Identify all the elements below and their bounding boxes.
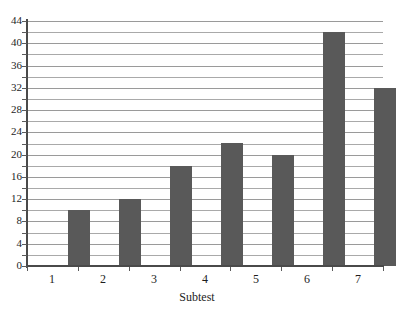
y-axis-tick-label: 36 (0, 60, 22, 71)
y-axis-tick (22, 88, 27, 89)
y-axis-tick-label: 20 (0, 149, 22, 160)
y-axis-tick (22, 43, 27, 44)
bar (272, 155, 294, 266)
x-axis-tick (78, 267, 79, 271)
y-axis-tick (22, 166, 27, 167)
plot-area (27, 21, 383, 266)
y-axis-tick-label: 40 (0, 37, 22, 48)
y-axis-tick-label: 16 (0, 171, 22, 182)
y-axis-tick-label: 0 (0, 260, 22, 271)
x-axis-label: Subtest (0, 290, 394, 304)
y-axis-tick (22, 188, 27, 189)
y-axis-tick (22, 77, 27, 78)
bar (323, 32, 345, 266)
y-axis-tick (22, 132, 27, 133)
x-axis-tick (180, 267, 181, 271)
y-axis-tick (22, 155, 27, 156)
y-axis-tick (22, 66, 27, 67)
bar (119, 199, 141, 266)
y-axis-tick-label: 28 (0, 104, 22, 115)
bar (221, 143, 243, 266)
y-axis-tick (22, 110, 27, 111)
x-axis-tick-label: 1 (32, 272, 72, 286)
x-axis-tick-label: 6 (287, 272, 327, 286)
y-axis-tick-label: 12 (0, 193, 22, 204)
x-axis-tick (129, 267, 130, 271)
x-axis-tick-label: 7 (338, 272, 378, 286)
y-axis-tick (22, 32, 27, 33)
y-axis-tick (22, 177, 27, 178)
y-axis-tick (22, 221, 27, 222)
y-axis-tick (22, 21, 27, 22)
bar (374, 88, 396, 266)
bar (68, 210, 90, 266)
y-axis-tick-label: 24 (0, 126, 22, 137)
y-axis-tick (22, 255, 27, 256)
x-axis-tick-label: 4 (185, 272, 225, 286)
y-axis-tick (22, 144, 27, 145)
y-axis-tick (22, 244, 27, 245)
x-axis-line (26, 265, 384, 267)
y-axis-tick-label: 32 (0, 82, 22, 93)
y-axis-tick (22, 210, 27, 211)
x-axis-tick-label: 5 (236, 272, 276, 286)
y-axis-tick (22, 121, 27, 122)
x-axis-tick (27, 267, 28, 271)
x-axis-tick-label: 3 (134, 272, 174, 286)
x-axis-tick (230, 267, 231, 271)
y-axis-tick (22, 99, 27, 100)
y-axis-tick (22, 233, 27, 234)
y-axis-tick (22, 199, 27, 200)
x-axis-tick-label: 2 (83, 272, 123, 286)
y-axis-tick-label: 44 (0, 15, 22, 26)
x-axis-tick (281, 267, 282, 271)
x-axis-tick (383, 267, 384, 271)
x-axis-tick (332, 267, 333, 271)
y-axis-tick-label: 4 (0, 238, 22, 249)
y-axis-tick (22, 54, 27, 55)
gridline (27, 21, 383, 22)
bar (170, 166, 192, 266)
y-axis-tick-label: 8 (0, 215, 22, 226)
